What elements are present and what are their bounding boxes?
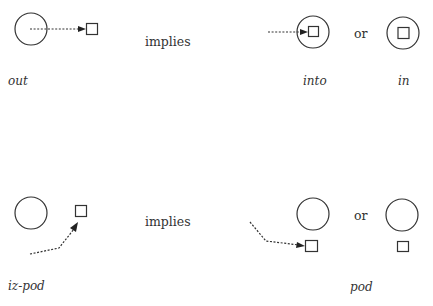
arrowhead-icon bbox=[70, 222, 78, 232]
figure-square bbox=[398, 242, 409, 252]
izpod-label: iz-pod bbox=[8, 279, 45, 293]
arrowhead-icon bbox=[78, 26, 86, 32]
trajectory-path bbox=[30, 229, 74, 254]
or-label-top: or bbox=[354, 26, 368, 41]
pod-figure-b bbox=[386, 199, 418, 252]
arrowhead-icon bbox=[300, 29, 308, 35]
pod-figure-a bbox=[250, 198, 329, 252]
out-figure bbox=[15, 13, 98, 45]
into-label: into bbox=[303, 74, 327, 88]
arrowhead-icon bbox=[296, 242, 305, 248]
implies-label-bottom: implies bbox=[145, 214, 191, 229]
in-label: in bbox=[398, 74, 410, 88]
figure-square bbox=[306, 241, 318, 252]
izpod-figure bbox=[15, 197, 87, 254]
or-label-bottom: or bbox=[354, 208, 368, 223]
container-circle bbox=[387, 17, 419, 49]
container-circle bbox=[297, 198, 329, 230]
figure-square bbox=[309, 27, 319, 37]
container-circle bbox=[386, 199, 418, 231]
in-figure bbox=[387, 17, 419, 49]
pod-label: pod bbox=[350, 280, 373, 294]
container-circle bbox=[15, 197, 47, 229]
figure-square bbox=[76, 206, 87, 217]
trajectory-path bbox=[250, 222, 299, 245]
implies-label-top: implies bbox=[145, 34, 191, 49]
into-figure bbox=[268, 16, 329, 48]
figure-square bbox=[398, 28, 409, 39]
figure-square bbox=[87, 24, 98, 35]
out-label: out bbox=[8, 74, 28, 88]
diagram-canvas: implies or out into in implies or iz-pod… bbox=[0, 0, 433, 306]
